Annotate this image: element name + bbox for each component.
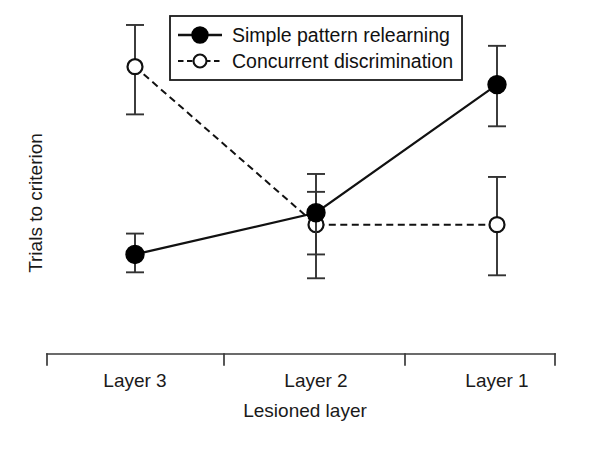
legend-marker-filled-circle bbox=[192, 27, 208, 43]
x-tick-label: Layer 1 bbox=[465, 370, 528, 391]
chart-canvas: Trials to criterion Layer 3Layer 2Layer … bbox=[0, 0, 611, 449]
legend-marker-open-circle bbox=[194, 55, 207, 68]
x-tick-label: Layer 2 bbox=[284, 370, 347, 391]
x-tick-label: Layer 3 bbox=[103, 370, 166, 391]
x-tick-labels: Layer 3Layer 2Layer 1 bbox=[103, 370, 528, 391]
data-point-filled-circle[interactable] bbox=[488, 76, 506, 94]
legend-label-text: Concurrent discrimination bbox=[232, 50, 453, 72]
data-point-open-circle[interactable] bbox=[490, 217, 505, 232]
legend-label-text: Simple pattern relearning bbox=[232, 24, 450, 46]
data-point-open-circle[interactable] bbox=[128, 59, 143, 74]
x-axis-label-text: Lesioned layer bbox=[243, 400, 367, 421]
x-axis bbox=[47, 354, 555, 365]
figure-container: Trials to criterion Layer 3Layer 2Layer … bbox=[0, 0, 611, 449]
y-axis-label: Trials to criterion bbox=[25, 133, 46, 273]
data-point-filled-circle[interactable] bbox=[307, 204, 325, 222]
legend: Simple pattern relearning Concurrent dis… bbox=[170, 16, 462, 80]
data-point-filled-circle[interactable] bbox=[126, 245, 144, 263]
y-axis-label-text: Trials to criterion bbox=[25, 133, 46, 273]
